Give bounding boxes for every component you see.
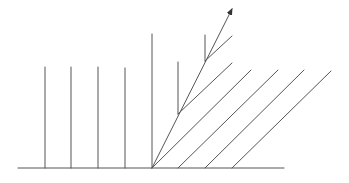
diagonal-ray-3 (205, 70, 304, 168)
arrow-line (152, 9, 232, 168)
diagonal-rays (152, 70, 331, 168)
arrow-ray (152, 9, 232, 168)
branch-ray-2 (205, 36, 232, 61)
diagonal-ray-1 (152, 70, 251, 168)
short-vertical-rays (178, 35, 205, 114)
branch-ray-1 (178, 63, 232, 114)
diagonal-ray-4 (232, 71, 331, 168)
diagonal-ray-2 (178, 70, 278, 168)
ray-diagram (0, 0, 349, 183)
incident-vertical-rays (45, 67, 125, 168)
